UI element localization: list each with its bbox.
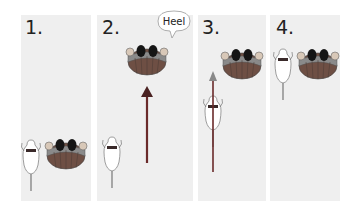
panel-4: 4.: [270, 15, 340, 201]
panel-4-label: 4.: [276, 16, 294, 38]
panel-2-label: 2.: [102, 16, 120, 38]
panel-1-label: 1.: [25, 16, 43, 38]
person-figure: [297, 49, 339, 79]
panel-3-label: 3.: [202, 16, 220, 38]
speech-bubble-text: Heel: [163, 16, 186, 27]
panel-3: 3.: [198, 15, 266, 201]
person-figure: [45, 139, 87, 169]
panel-1: 1.: [21, 15, 91, 201]
person-figure: [221, 49, 263, 79]
illustration-canvas: 1. 2. Heel 3. 4.: [0, 0, 353, 210]
person-figure: [126, 45, 168, 75]
panel-2: 2. Heel: [97, 11, 193, 201]
